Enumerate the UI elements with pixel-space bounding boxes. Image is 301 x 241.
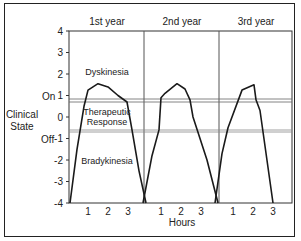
off-state-label: Off [41, 134, 54, 145]
curve-2 [143, 84, 218, 203]
curve-1 [70, 84, 146, 203]
on-threshold-line [69, 99, 292, 102]
panel-label-year3: 3rd year [238, 16, 275, 27]
x-tick-label: 1 [230, 206, 236, 217]
x-tick-label: 3 [198, 206, 204, 217]
x-tick-label: 2 [178, 206, 184, 217]
y-tick-label: -2 [54, 155, 63, 166]
panel-label-year1: 1st year [89, 16, 125, 27]
y-tick-label: 1 [57, 90, 63, 101]
x-tick-label: 1 [85, 206, 91, 217]
off-threshold-line [69, 130, 292, 132]
y-tick-label: 3 [57, 47, 63, 58]
x-tick-label: 2 [105, 206, 111, 217]
panel-label-year2: 2nd year [163, 16, 203, 27]
y-tick-label: 2 [57, 69, 63, 80]
region-label-response: Response [87, 117, 128, 127]
chart: 43210-1-2-3-4 1st year 2nd year 3rd year… [0, 0, 301, 241]
y-axis-ticks: 43210-1-2-3-4 [54, 26, 69, 209]
x-axis-tick-labels: 123123123 [85, 206, 276, 217]
region-label-therapeutic: Therapeutic [83, 107, 131, 117]
x-tick-label: 1 [158, 206, 164, 217]
region-label-dyskinesia: Dyskinesia [85, 67, 129, 77]
y-tick-label: -4 [54, 198, 63, 209]
x-tick-label: 2 [250, 206, 256, 217]
curve-3 [215, 85, 273, 203]
y-tick-label: -3 [54, 176, 63, 187]
x-tick-label: 3 [270, 206, 276, 217]
x-axis-title: Hours [169, 217, 196, 228]
y-tick-label: 0 [57, 112, 63, 123]
y-axis-title-line2: State [10, 121, 34, 132]
on-state-label: On [42, 91, 55, 102]
y-axis-title-line1: Clinical [6, 109, 38, 120]
y-tick-label: 4 [57, 26, 63, 37]
y-tick-label: -1 [54, 133, 63, 144]
x-tick-label: 3 [125, 206, 131, 217]
clinical-state-curves [70, 84, 273, 203]
region-label-bradykinesia: Bradykinesia [81, 156, 133, 166]
